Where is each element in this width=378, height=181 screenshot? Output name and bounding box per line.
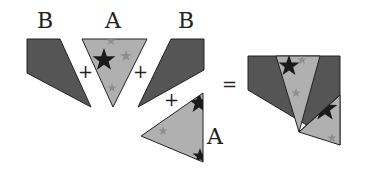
label-b-right: B xyxy=(178,10,194,32)
plus-sign: + xyxy=(164,91,179,109)
result-block xyxy=(248,55,340,145)
label-a-bottom: A xyxy=(207,126,223,148)
label-a-top: A xyxy=(105,10,121,32)
plus-sign: + xyxy=(133,63,148,81)
equals-sign: = xyxy=(222,76,237,94)
label-b-left: B xyxy=(37,10,53,32)
plus-sign: + xyxy=(78,63,93,81)
quilt-piece-diagram: B A B A + + + = xyxy=(0,0,378,181)
